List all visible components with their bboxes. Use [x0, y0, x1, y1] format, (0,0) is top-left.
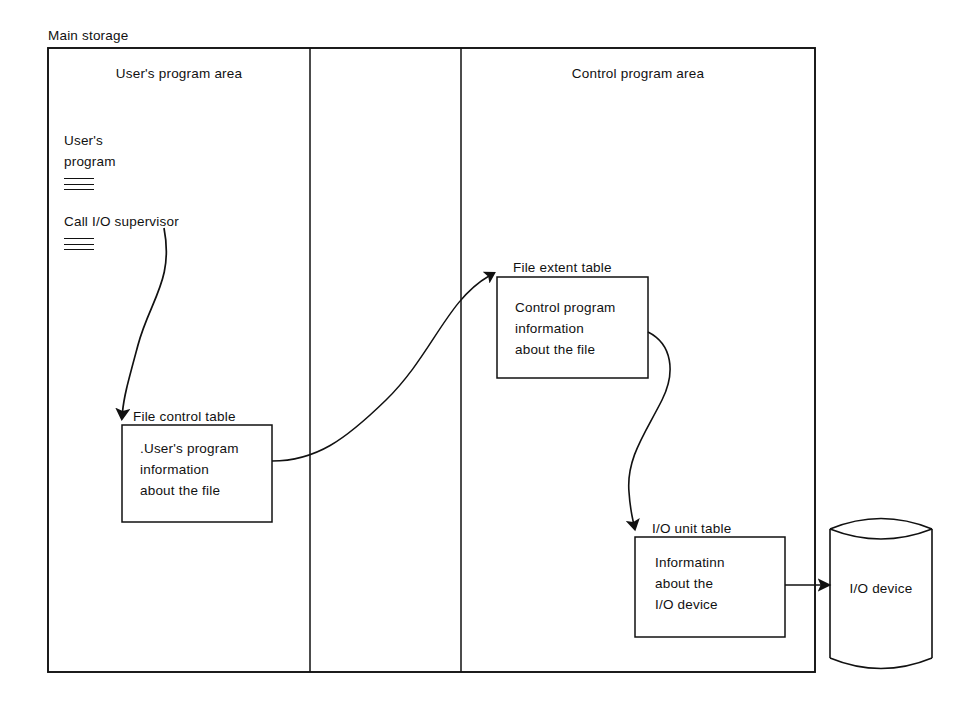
file-control-table-body: .User's programinformationabout the file — [140, 438, 239, 501]
file-extent-table-body-line-2: information — [515, 321, 584, 336]
file-extent-table-body-line-3: about the file — [515, 342, 595, 357]
arrow-program-to-file-control-table — [123, 228, 167, 412]
file-control-table-body-line-3: about the file — [140, 483, 220, 498]
file-control-table-caption: File control table — [133, 406, 236, 427]
diagram-vector-layer — [0, 0, 972, 706]
users-program-area-label: User's program area — [48, 63, 310, 84]
file-control-table-body-line-1: .User's program — [140, 441, 239, 456]
users-program-listing-title: User'sprogram — [64, 130, 116, 172]
diagram-canvas: Main storage User's program area Control… — [0, 0, 972, 706]
io-device-label: I/O device — [830, 578, 932, 599]
arrow-file-extent-to-io-unit-table — [629, 332, 670, 523]
file-extent-table-body-line-1: Control program — [515, 300, 616, 315]
users-program-line-2: program — [64, 154, 116, 169]
program-rule — [64, 244, 94, 245]
program-rules-group-1 — [64, 178, 94, 195]
io-unit-table-body: Informatinnabout theI/O device — [655, 552, 725, 615]
file-control-table-body-line-2: information — [140, 462, 209, 477]
arrow-file-control-to-file-extent-table — [272, 276, 489, 461]
io-unit-table-body-line-1: Informatinn — [655, 555, 725, 570]
program-rule — [64, 178, 94, 179]
call-io-supervisor-label: Call I/O supervisor — [64, 211, 179, 232]
program-rule — [64, 249, 94, 250]
program-rules-group-2 — [64, 238, 94, 255]
io-unit-table-body-line-3: I/O device — [655, 597, 718, 612]
file-extent-table-body: Control programinformationabout the file — [515, 297, 616, 360]
file-extent-table-caption: File extent table — [513, 257, 612, 278]
program-rule — [64, 238, 94, 239]
io-unit-table-body-line-2: about the — [655, 576, 713, 591]
control-program-area-label: Control program area — [461, 63, 815, 84]
program-rule — [64, 189, 94, 190]
program-rule — [64, 184, 94, 185]
users-program-line-1: User's — [64, 133, 103, 148]
main-storage-label: Main storage — [48, 25, 128, 46]
io-unit-table-caption: I/O unit table — [652, 518, 731, 539]
